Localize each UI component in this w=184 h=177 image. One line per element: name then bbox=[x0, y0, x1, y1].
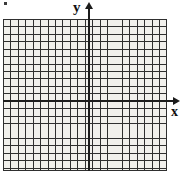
scan-artifact-dot bbox=[4, 2, 7, 5]
y-axis-line bbox=[88, 9, 90, 171]
x-axis-line bbox=[3, 100, 173, 102]
graph-paper-grid bbox=[3, 19, 167, 171]
y-axis-arrow-icon bbox=[85, 2, 93, 9]
x-axis-label: x bbox=[171, 105, 178, 119]
coordinate-grid-figure: y x bbox=[0, 0, 184, 177]
y-axis-label: y bbox=[73, 0, 81, 15]
